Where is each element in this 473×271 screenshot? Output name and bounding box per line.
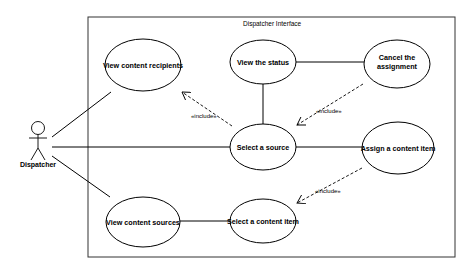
use-case-view-content-sources[interactable]: View content sources [106,197,180,247]
association-actor-view-sources[interactable] [52,156,110,197]
actor-label: Dispatcher [20,161,56,169]
use-case-select-a-source[interactable]: Select a source [230,124,296,170]
use-case-view-content-recipients[interactable]: View content recipients [103,39,183,91]
svg-text:View the status: View the status [237,58,289,67]
svg-text:Select a source: Select a source [237,143,290,152]
include-label-3: «include» [315,188,341,194]
svg-text:Select a content item: Select a content item [227,217,299,226]
use-case-assign-a-content-item[interactable]: Assign a content item [361,122,436,174]
svg-text:Cancel the: Cancel the [379,53,415,62]
actor-dispatcher[interactable] [29,122,47,161]
actor-head-icon [32,122,45,135]
include-cancel-to-source[interactable] [297,84,363,125]
use-case-cancel-the-assignment[interactable]: Cancel the assignment [364,40,430,88]
svg-text:View content recipients: View content recipients [103,61,183,70]
svg-text:assignment: assignment [377,62,418,71]
include-assign-to-select-item[interactable] [297,168,362,203]
system-label: Dispatcher Interface [243,20,302,28]
svg-text:View content sources: View content sources [106,218,180,227]
svg-text:Assign a content item: Assign a content item [361,144,436,153]
include-source-to-recipients[interactable] [182,92,232,126]
associations [52,62,364,221]
use-case-select-a-content-item[interactable]: Select a content item [227,199,299,243]
use-case-diagram: Dispatcher Interface «include» «include»… [0,0,473,271]
include-label-2: «include» [316,108,342,114]
include-label-1: «include» [191,113,217,119]
association-actor-view-recipients[interactable] [52,92,111,137]
use-case-view-the-status[interactable]: View the status [230,40,296,84]
